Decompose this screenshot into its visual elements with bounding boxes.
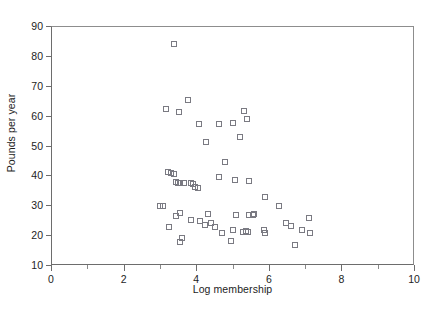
y-axis-tick — [46, 235, 51, 236]
data-point — [195, 185, 201, 191]
x-axis-minor-tick — [378, 265, 379, 269]
plot-area: 1020304050607080900246810 — [51, 26, 414, 265]
y-axis-tick — [46, 205, 51, 206]
x-axis-title: Log membership — [51, 283, 414, 295]
y-axis-tick-label: 20 — [31, 229, 43, 241]
y-axis-title-text: Pounds per year — [5, 93, 17, 172]
x-axis-minor-tick — [160, 265, 161, 269]
data-point — [205, 211, 211, 217]
data-point — [181, 180, 187, 186]
y-axis-tick-label: 70 — [31, 80, 43, 92]
y-axis-tick — [46, 26, 51, 27]
x-axis-tick — [341, 265, 342, 271]
y-axis-tick — [46, 116, 51, 117]
x-axis-minor-tick — [87, 265, 88, 269]
data-point — [230, 120, 236, 126]
data-point — [203, 139, 209, 145]
y-axis-tick — [46, 175, 51, 176]
y-axis-tick-label: 30 — [31, 199, 43, 211]
x-axis-minor-tick — [305, 265, 306, 269]
data-point — [245, 229, 251, 235]
data-point — [212, 224, 218, 230]
data-point — [262, 230, 268, 236]
data-point — [176, 109, 182, 115]
data-point — [241, 108, 247, 114]
data-point — [216, 174, 222, 180]
data-point — [307, 230, 313, 236]
y-axis-tick-label: 80 — [31, 50, 43, 62]
data-point — [237, 134, 243, 140]
data-point — [251, 211, 257, 217]
x-axis-tick — [51, 265, 52, 271]
data-point — [306, 215, 312, 221]
y-axis-tick — [46, 56, 51, 57]
scatter-plot-figure: Pounds per year 102030405060708090024681… — [0, 0, 428, 309]
data-point — [160, 203, 166, 209]
data-point — [299, 227, 305, 233]
x-axis-tick — [269, 265, 270, 271]
data-point — [244, 116, 250, 122]
data-point — [233, 212, 239, 218]
y-axis-tick-label: 60 — [31, 110, 43, 122]
data-point — [228, 238, 234, 244]
x-axis-tick — [124, 265, 125, 271]
data-point — [222, 159, 228, 165]
y-axis-tick-label: 40 — [31, 169, 43, 181]
y-axis-tick — [46, 146, 51, 147]
data-point — [216, 121, 222, 127]
y-axis-title: Pounds per year — [0, 0, 22, 265]
y-axis-tick-label: 10 — [31, 259, 43, 271]
data-point — [219, 230, 225, 236]
data-point — [171, 41, 177, 47]
data-point — [288, 223, 294, 229]
data-point — [232, 177, 238, 183]
data-point — [246, 178, 252, 184]
data-point — [276, 203, 282, 209]
data-point — [262, 194, 268, 200]
data-point — [171, 171, 177, 177]
x-axis-minor-tick — [233, 265, 234, 269]
y-axis-tick — [46, 86, 51, 87]
x-axis-tick — [196, 265, 197, 271]
data-point — [196, 121, 202, 127]
data-point — [188, 217, 194, 223]
y-axis-tick-label: 50 — [31, 140, 43, 152]
y-axis-tick-label: 90 — [31, 20, 43, 32]
data-point — [163, 106, 169, 112]
data-point — [292, 242, 298, 248]
data-point — [166, 224, 172, 230]
x-axis-tick — [414, 265, 415, 271]
figure-caption — [36, 299, 376, 309]
data-point — [185, 97, 191, 103]
data-point — [173, 213, 179, 219]
data-point — [177, 239, 183, 245]
data-point — [230, 227, 236, 233]
